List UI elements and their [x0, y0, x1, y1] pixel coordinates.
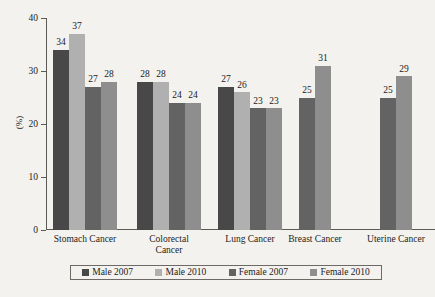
bar-value-label: 29 — [399, 65, 409, 75]
y-axis-tick-label: 10 — [14, 173, 38, 183]
legend-swatch-icon — [82, 269, 89, 276]
x-axis-category-label: Stomach Cancer — [40, 234, 130, 245]
bar: 27 — [85, 87, 101, 230]
bar: 27 — [218, 87, 234, 230]
chart-legend: Male 2007Male 2010Female 2007Female 2010 — [70, 265, 382, 280]
x-axis-category-label: ColorectalCancer — [124, 234, 214, 256]
legend-item-label: Male 2007 — [92, 268, 133, 278]
bar: 29 — [396, 76, 412, 230]
bar-value-label: 27 — [221, 75, 231, 85]
y-axis-tick — [41, 18, 46, 19]
bar: 28 — [137, 82, 153, 230]
legend-item-label: Male 2010 — [165, 268, 206, 278]
bar: 25 — [380, 98, 396, 231]
bar: 28 — [153, 82, 169, 230]
legend-swatch-icon — [310, 269, 317, 276]
bar: 24 — [169, 103, 185, 230]
bar-value-label: 27 — [88, 75, 98, 85]
x-axis-category-label-line: Stomach Cancer — [40, 234, 130, 245]
legend-swatch-icon — [229, 269, 236, 276]
bar-value-label: 24 — [172, 91, 182, 101]
bar: 28 — [101, 82, 117, 230]
y-axis-tick — [41, 124, 46, 125]
plot-area: 34372728282824242726232325312529 — [46, 18, 431, 230]
legend-swatch-icon — [155, 269, 162, 276]
bar-value-label: 34 — [56, 38, 66, 48]
bar: 37 — [69, 34, 85, 230]
bar: 34 — [53, 50, 69, 230]
bar-value-label: 24 — [188, 91, 198, 101]
bar-value-label: 28 — [104, 70, 114, 80]
y-axis-tick — [41, 71, 46, 72]
legend-item: Male 2010 — [155, 268, 206, 278]
bar: 24 — [185, 103, 201, 230]
x-axis-category-label: Breast Cancer — [270, 234, 360, 245]
bar: 25 — [299, 98, 315, 231]
bar: 23 — [266, 108, 282, 230]
bar-value-label: 26 — [237, 81, 247, 91]
y-axis-tick-label: 0 — [14, 226, 38, 236]
bar-value-label: 25 — [383, 86, 393, 96]
x-axis-category-label-line: Cancer — [124, 245, 214, 256]
bar-value-label: 37 — [72, 22, 82, 32]
bar-value-label: 28 — [156, 70, 166, 80]
x-axis-category-label-line: Colorectal — [124, 234, 214, 245]
bar-value-label: 23 — [253, 97, 263, 107]
bar-value-label: 23 — [269, 97, 279, 107]
x-axis-category-label-line: Breast Cancer — [270, 234, 360, 245]
y-axis-tick-label: 40 — [14, 14, 38, 24]
y-axis-tick-label: 30 — [14, 67, 38, 77]
legend-item: Male 2007 — [82, 268, 133, 278]
y-axis-tick — [41, 230, 46, 231]
x-axis-category-label: Uterine Cancer — [351, 234, 435, 245]
bar: 26 — [234, 92, 250, 230]
bar-chart: (%) 34372728282824242726232325312529 010… — [0, 0, 435, 297]
y-axis-tick-label: 20 — [14, 120, 38, 130]
y-axis-tick — [41, 177, 46, 178]
legend-item: Female 2007 — [229, 268, 288, 278]
bar: 31 — [315, 66, 331, 230]
bar-value-label: 31 — [318, 54, 328, 64]
bar: 23 — [250, 108, 266, 230]
bar-value-label: 28 — [140, 70, 150, 80]
x-axis-category-label-line: Uterine Cancer — [351, 234, 435, 245]
legend-item-label: Female 2007 — [239, 268, 288, 278]
legend-item-label: Female 2010 — [320, 268, 369, 278]
legend-item: Female 2010 — [310, 268, 369, 278]
bar-value-label: 25 — [302, 86, 312, 96]
